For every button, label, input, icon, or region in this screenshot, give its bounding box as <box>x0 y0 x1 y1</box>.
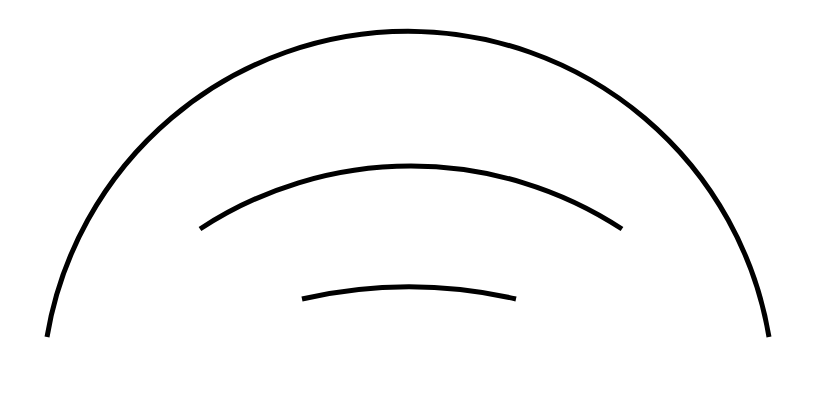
arc-diagram-canvas <box>0 0 814 394</box>
concentric-arcs-figure <box>0 0 814 394</box>
middle-arc <box>200 166 622 229</box>
outer-arc <box>47 31 769 337</box>
inner-arc <box>302 287 516 299</box>
